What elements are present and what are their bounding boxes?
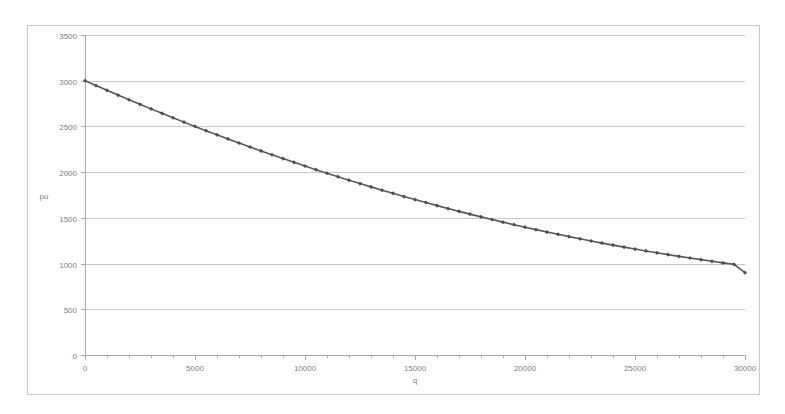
series-marker bbox=[292, 160, 296, 164]
series-marker bbox=[281, 157, 285, 161]
x-tick-label-5000: 5000 bbox=[186, 364, 204, 373]
series-marker bbox=[248, 145, 252, 149]
x-tick-label-15000: 15000 bbox=[404, 364, 427, 373]
y-axis-title: pu bbox=[40, 192, 49, 201]
series-marker bbox=[699, 258, 703, 262]
series-marker bbox=[402, 194, 406, 198]
series-marker bbox=[435, 204, 439, 208]
series-marker bbox=[226, 137, 230, 141]
series-marker bbox=[622, 245, 626, 249]
x-tick-label-25000: 25000 bbox=[624, 364, 647, 373]
series-marker bbox=[468, 212, 472, 216]
series-marker bbox=[413, 197, 417, 201]
series-marker bbox=[182, 120, 186, 124]
series-marker bbox=[193, 124, 197, 128]
y-tick-label-1000: 1000 bbox=[59, 261, 77, 270]
series-marker bbox=[457, 209, 461, 213]
series-marker bbox=[677, 254, 681, 258]
series-marker bbox=[259, 149, 263, 153]
y-tick-label-2000: 2000 bbox=[59, 169, 77, 178]
x-tick-label-0: 0 bbox=[83, 364, 88, 373]
y-tick-label-2500: 2500 bbox=[59, 123, 77, 132]
y-axis-ticks bbox=[81, 36, 85, 356]
series-marker bbox=[545, 230, 549, 234]
data-series-pu bbox=[83, 79, 747, 275]
series-marker bbox=[600, 241, 604, 245]
series-line-pu bbox=[85, 81, 745, 273]
series-marker bbox=[380, 188, 384, 192]
series-marker bbox=[237, 141, 241, 145]
series-marker bbox=[523, 225, 527, 229]
series-marker bbox=[534, 228, 538, 232]
x-axis-tick-labels: 050001000015000200002500030000 bbox=[83, 364, 757, 373]
x-tick-label-30000: 30000 bbox=[734, 364, 757, 373]
chart-canvas: 0500100015002000250030003500 05000100001… bbox=[0, 0, 785, 414]
series-marker bbox=[666, 253, 670, 257]
series-marker bbox=[655, 251, 659, 255]
x-tick-label-10000: 10000 bbox=[294, 364, 317, 373]
series-marker bbox=[512, 223, 516, 227]
y-tick-label-500: 500 bbox=[64, 306, 78, 315]
series-marker bbox=[204, 129, 208, 133]
series-marker bbox=[391, 191, 395, 195]
series-marker bbox=[358, 181, 362, 185]
y-tick-label-0: 0 bbox=[73, 352, 78, 361]
series-marker bbox=[556, 232, 560, 236]
x-tick-label-20000: 20000 bbox=[514, 364, 537, 373]
series-marker bbox=[325, 171, 329, 175]
series-marker bbox=[578, 237, 582, 241]
series-marker bbox=[567, 235, 571, 239]
series-marker bbox=[314, 168, 318, 172]
series-marker bbox=[446, 206, 450, 210]
series-marker bbox=[501, 220, 505, 224]
gridlines bbox=[85, 36, 745, 356]
series-marker bbox=[633, 247, 637, 251]
series-marker bbox=[644, 249, 648, 253]
series-marker bbox=[270, 153, 274, 157]
series-marker bbox=[303, 164, 307, 168]
y-tick-label-3500: 3500 bbox=[59, 32, 77, 41]
series-marker bbox=[611, 243, 615, 247]
y-tick-label-1500: 1500 bbox=[59, 215, 77, 224]
series-marker bbox=[347, 178, 351, 182]
series-marker bbox=[215, 133, 219, 137]
x-axis-title: q bbox=[413, 376, 417, 385]
series-marker bbox=[688, 256, 692, 260]
series-marker bbox=[424, 200, 428, 204]
y-axis-tick-labels: 0500100015002000250030003500 bbox=[59, 32, 77, 361]
series-marker bbox=[336, 175, 340, 179]
series-marker bbox=[160, 111, 164, 115]
series-marker bbox=[710, 259, 714, 263]
series-marker bbox=[369, 185, 373, 189]
y-tick-label-3000: 3000 bbox=[59, 78, 77, 87]
series-marker bbox=[171, 116, 175, 120]
axis-lines bbox=[85, 35, 745, 356]
series-marker bbox=[589, 239, 593, 243]
